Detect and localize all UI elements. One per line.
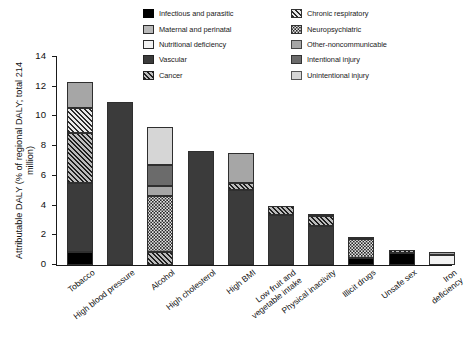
bar-segment-cancer: [228, 183, 254, 190]
legend-item[interactable]: Chronic respiratory: [291, 6, 451, 21]
bar-segment-unintentional: [147, 127, 173, 165]
plot-area: Attributable DALY (% of regional DALY; t…: [56, 56, 452, 266]
y-tick-label: 14: [35, 51, 46, 61]
bar-series-container: [57, 57, 451, 265]
legend-label: Nutritional deficiency: [159, 40, 226, 49]
bar-segment-infectious: [389, 253, 415, 265]
bar-alcohol[interactable]: [147, 127, 173, 265]
x-axis-label: High BMI: [225, 268, 258, 297]
x-axis-labels: TobaccoHigh blood pressureAlcoholHigh ch…: [56, 268, 456, 352]
bar-tobacco[interactable]: [67, 82, 93, 265]
legend-label: Neuropsychiatric: [307, 25, 361, 34]
y-axis-title: Attributable DALY (% of regional DALY; t…: [12, 56, 38, 265]
bar-segment-othernc: [147, 186, 173, 196]
bar-segment-infectious: [67, 252, 93, 265]
legend-label: Maternal and perinatal: [159, 25, 231, 34]
x-axis-label: Illicit drugs: [341, 268, 378, 300]
bar-segment-infectious: [348, 258, 374, 265]
y-tick-label: 0: [41, 259, 46, 269]
y-tick: 8: [52, 145, 56, 146]
legend-item[interactable]: Neuropsychiatric: [291, 21, 451, 36]
bar-segment-vascular: [268, 215, 294, 266]
y-tick: 4: [52, 205, 56, 206]
bar-low-fruit-and-vegetable-intake[interactable]: [268, 206, 294, 265]
legend-label: Chronic respiratory: [307, 9, 368, 18]
bar-high-blood-pressure[interactable]: [107, 102, 133, 265]
bar-segment-cancer: [389, 250, 415, 253]
legend-swatch-maternal: [143, 25, 154, 34]
x-axis-label: Unsafe sex: [380, 268, 419, 301]
bar-segment-othernc: [228, 153, 254, 183]
y-tick-label: 10: [35, 110, 46, 120]
bar-segment-othernc: [67, 82, 93, 107]
legend-swatch-nutritional: [143, 40, 154, 49]
y-tick-label: 6: [41, 170, 46, 180]
y-tick: 2: [52, 234, 56, 235]
y-tick-label: 8: [41, 140, 46, 150]
bar-segment-vascular: [308, 226, 334, 265]
bar-segment-cancer: [67, 133, 93, 184]
bar-segment-vascular: [228, 190, 254, 265]
x-axis-line: [56, 265, 452, 266]
y-tick: 10: [52, 115, 56, 116]
y-tick-label: 12: [35, 81, 46, 91]
y-tick: 6: [52, 175, 56, 176]
bar-segment-neuro: [348, 239, 374, 258]
y-tick-label: 2: [41, 229, 46, 239]
y-tick: 0: [52, 264, 56, 265]
bar-segment-cancer: [308, 216, 334, 226]
legend-swatch-othernc: [291, 40, 302, 49]
x-axis-label: Tobacco: [66, 268, 96, 295]
bar-high-cholesterol[interactable]: [188, 151, 214, 265]
bar-segment-othernc: [348, 237, 374, 239]
bar-segment-nutritional: [429, 255, 455, 265]
y-tick: 12: [52, 86, 56, 87]
legend-item[interactable]: Other-noncommunicable: [291, 37, 451, 52]
legend-item[interactable]: Infectious and parasitic: [143, 6, 283, 21]
y-tick-label: 4: [41, 200, 46, 210]
x-axis-label: Alcohol: [150, 268, 178, 292]
bar-segment-vascular: [67, 183, 93, 251]
bar-physical-inactivity[interactable]: [308, 214, 334, 265]
bar-illicit-drugs[interactable]: [348, 237, 374, 265]
legend-swatch-neuro: [291, 25, 302, 34]
bar-segment-othernc: [308, 214, 334, 216]
legend-swatch-chronic: [291, 9, 302, 18]
legend-item[interactable]: Maternal and perinatal: [143, 21, 283, 36]
bar-segment-chronic: [67, 108, 93, 133]
bar-segment-intentional: [147, 165, 173, 187]
legend-item[interactable]: Nutritional deficiency: [143, 37, 283, 52]
bar-segment-vascular: [188, 151, 214, 265]
bar-unsafe-sex[interactable]: [389, 250, 415, 265]
bar-iron-deficiency[interactable]: [429, 252, 455, 265]
bar-segment-cancer: [147, 252, 173, 265]
bar-high-bmi[interactable]: [228, 153, 254, 265]
y-tick: 14: [52, 56, 56, 57]
legend-label: Other-noncommunicable: [307, 40, 387, 49]
legend-swatch-infectious: [143, 9, 154, 18]
bar-segment-cancer: [268, 206, 294, 214]
legend-label: Infectious and parasitic: [159, 9, 233, 18]
bar-segment-othernc: [429, 252, 455, 256]
x-axis-label: Iron deficiency: [423, 268, 464, 306]
bar-segment-vascular: [107, 102, 133, 265]
bar-segment-neuro: [147, 196, 173, 252]
